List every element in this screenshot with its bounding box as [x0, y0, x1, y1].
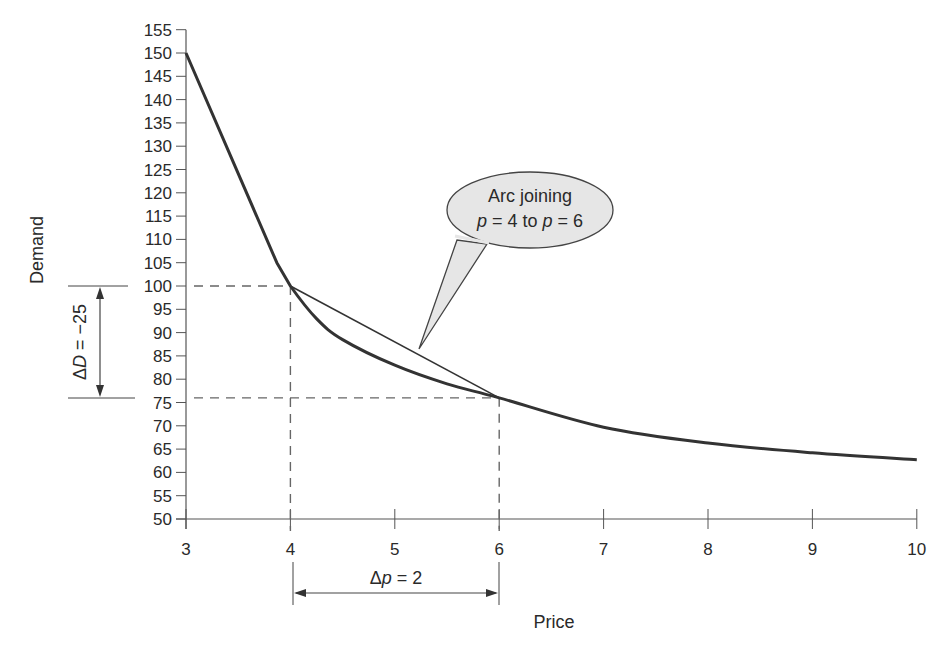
y-tick-label: 65	[153, 440, 172, 459]
y-tick-label: 95	[153, 300, 172, 319]
x-tick-label: 10	[907, 540, 926, 559]
x-tick-label: 6	[494, 540, 503, 559]
y-tick-label: 70	[153, 417, 172, 436]
y-tick-label: 85	[153, 347, 172, 366]
y-tick-label: 105	[144, 254, 172, 273]
y-tick-label: 60	[153, 463, 172, 482]
arc-callout: Arc joining p = 4 to p = 6	[205, 172, 613, 349]
y-tick-label: 150	[144, 44, 172, 63]
x-tick-label: 8	[703, 540, 712, 559]
y-tick-label: 135	[144, 114, 172, 133]
callout-line-2: p = 4 to p = 6	[476, 211, 583, 231]
x-tick-label: 3	[181, 540, 190, 559]
x-tick-label: 7	[599, 540, 608, 559]
y-tick-label: 140	[144, 91, 172, 110]
secant-arc-line	[290, 286, 499, 398]
y-tick-label: 115	[145, 207, 172, 226]
delta-d-dimension: ΔD = −25	[68, 286, 135, 398]
y-tick-label: 120	[144, 184, 172, 203]
y-tick-label: 110	[145, 230, 172, 249]
demand-chart: 5055606570758085909510010511011512012513…	[0, 0, 944, 650]
y-tick-label: 145	[144, 67, 172, 86]
delta-p-label: Δp = 2	[370, 568, 423, 588]
x-axis-title: Price	[533, 612, 574, 632]
demand-curve	[186, 53, 917, 460]
y-tick-label: 90	[153, 324, 172, 343]
y-axis-title: Demand	[27, 216, 47, 284]
x-tick-label: 4	[286, 540, 295, 559]
y-tick-label: 55	[153, 487, 172, 506]
delta-d-label: ΔD = −25	[70, 304, 90, 380]
y-tick-label: 130	[144, 137, 172, 156]
y-tick-label: 75	[153, 394, 172, 413]
y-tick-label: 100	[144, 277, 172, 296]
x-tick-label: 9	[808, 540, 817, 559]
y-tick-label: 155	[144, 21, 172, 40]
reference-lines	[194, 286, 499, 531]
x-tick-label: 5	[390, 540, 399, 559]
y-tick-label: 125	[144, 161, 172, 180]
callout-line-1: Arc joining	[488, 186, 572, 206]
y-tick-label: 50	[153, 510, 172, 529]
delta-p-dimension: Δp = 2	[293, 562, 499, 605]
axes: 5055606570758085909510010511011512012513…	[144, 21, 927, 559]
y-tick-label: 80	[153, 370, 172, 389]
